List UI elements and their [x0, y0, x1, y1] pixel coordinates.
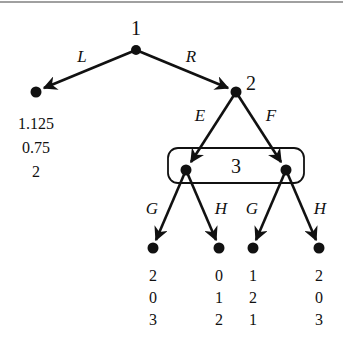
- payoff-value: 1: [215, 289, 223, 306]
- edge-H-left: [186, 170, 216, 240]
- payoffs-leaf-FH: 2 0 3: [315, 267, 323, 328]
- leaf-EH: [214, 243, 225, 254]
- payoff-value: 3: [149, 311, 157, 328]
- action-G-right-label: G: [246, 199, 258, 218]
- payoffs-leaf-EH: 0 1 2: [215, 267, 223, 328]
- leaf-EG: [148, 243, 159, 254]
- edge-E: [191, 92, 236, 162]
- player-1-label: 1: [131, 17, 141, 39]
- leaf-L: [31, 87, 42, 98]
- action-F-label: F: [265, 106, 277, 125]
- payoff-value: 2: [315, 267, 323, 284]
- payoffs-leaf-L: 1.125 0.75 2: [18, 115, 54, 180]
- payoff-value: 1: [249, 267, 257, 284]
- player-2-label: 2: [246, 72, 256, 94]
- game-tree: 1 2 3 L R E F G H G H 1.125 0.75 2 2 0 3…: [0, 0, 343, 355]
- payoff-value: 0: [315, 289, 323, 306]
- payoff-value: 2: [32, 163, 40, 180]
- payoff-value: 1: [249, 311, 257, 328]
- payoff-value: 0.75: [22, 139, 50, 156]
- payoff-value: 0: [215, 267, 223, 284]
- edges: [44, 50, 316, 240]
- payoff-value: 3: [315, 311, 323, 328]
- action-H-left-label: H: [214, 199, 229, 218]
- edge-F: [236, 92, 281, 162]
- player-3-label: 3: [231, 155, 241, 177]
- leaf-FG: [248, 243, 259, 254]
- edge-L: [44, 50, 136, 88]
- action-E-label: E: [194, 106, 206, 125]
- node-player-3-left: [181, 165, 192, 176]
- node-player-3-right: [281, 165, 292, 176]
- payoff-value: 2: [249, 289, 257, 306]
- edge-G-right: [256, 170, 286, 240]
- leaf-FH: [314, 243, 325, 254]
- action-R-label: R: [185, 47, 197, 66]
- payoffs-leaf-EG: 2 0 3: [149, 267, 157, 328]
- edge-R: [136, 50, 228, 88]
- action-H-right-label: H: [313, 199, 328, 218]
- payoffs-leaf-FG: 1 2 1: [249, 267, 257, 328]
- node-player-2: [231, 87, 242, 98]
- action-G-left-label: G: [146, 199, 158, 218]
- payoff-value: 0: [149, 289, 157, 306]
- payoff-value: 2: [215, 311, 223, 328]
- payoff-value: 2: [149, 267, 157, 284]
- node-root: [131, 45, 141, 55]
- payoff-value: 1.125: [18, 115, 54, 132]
- action-L-label: L: [76, 47, 86, 66]
